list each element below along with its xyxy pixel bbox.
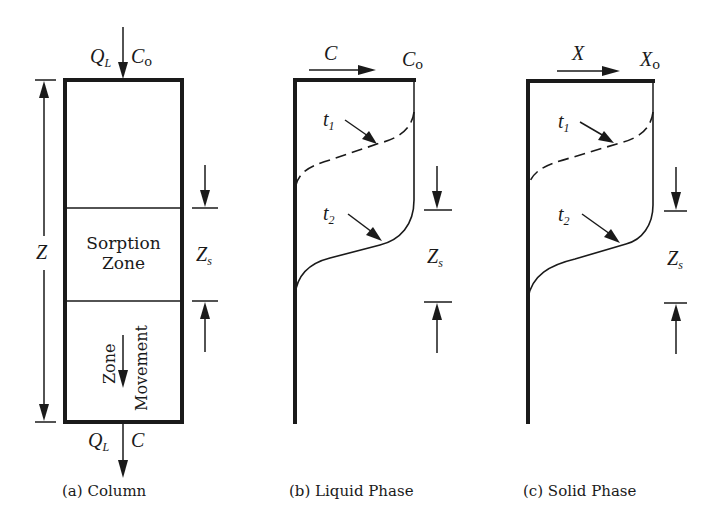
solid-t1-pointer-icon [580, 122, 614, 143]
outlet-arrow-icon [118, 424, 128, 478]
zone-movement-label-line2: Movement [132, 325, 151, 411]
liquid-t2-label: t2 [323, 202, 335, 225]
liquid-curve-t1 [295, 112, 414, 190]
liquid-axis-max-label: Co [402, 48, 423, 71]
solid-t2-pointer-icon [582, 214, 620, 243]
inlet-flow-label: QL [90, 45, 111, 68]
solid-t1-label: t1 [558, 110, 570, 133]
liquid-curve-t2 [295, 112, 414, 295]
liquid-t1-label: t1 [323, 108, 335, 131]
solid-curve-t2 [528, 112, 653, 298]
solid-axis-label: X [572, 42, 584, 65]
solid-t2-label: t2 [558, 203, 570, 226]
liquid-axis-label: C [324, 42, 337, 65]
inlet-arrow-icon [118, 27, 128, 79]
solid-loading-arrow-icon [557, 66, 620, 76]
inlet-concentration-label: Co [131, 45, 152, 68]
zone-height-label-a: Zs [196, 243, 212, 266]
outlet-flow-label: QL [88, 429, 109, 452]
caption-solid-phase: (c) Solid Phase [523, 482, 636, 500]
outlet-concentration-label: C [131, 429, 144, 452]
solid-phase-panel [526, 66, 687, 424]
zone-movement-arrow-icon [118, 335, 128, 388]
zone-movement-label-line1: Zone [100, 343, 119, 384]
zone-height-label-c: Zs [667, 247, 683, 270]
column-height-label: Z [36, 241, 47, 264]
sorption-zone-label: Sorption Zone [65, 233, 182, 273]
zone-height-label-b: Zs [427, 245, 443, 268]
liquid-t2-pointer-icon [348, 214, 382, 241]
liquid-t1-pointer-icon [345, 120, 377, 144]
caption-column: (a) Column [62, 482, 146, 500]
solid-curve-t1 [528, 112, 653, 188]
liquid-concentration-arrow-icon [309, 65, 376, 75]
solid-axis-max-label: Xo [640, 48, 660, 71]
caption-liquid-phase: (b) Liquid Phase [289, 482, 414, 500]
